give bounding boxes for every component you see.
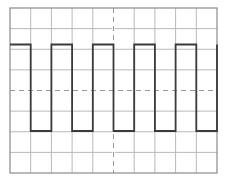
graticule-canvas [0,0,227,181]
oscilloscope-display [0,0,227,181]
